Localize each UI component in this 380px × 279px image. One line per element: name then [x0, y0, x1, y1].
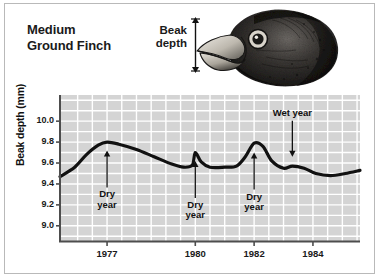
x-axis-tick-label: 1977 [85, 248, 129, 259]
y-axis-tick-label: 9.6 [20, 157, 54, 167]
beak-depth-line-chart [0, 0, 380, 279]
finch-beak-depth-figure: Medium Ground Finch Beak depth [0, 0, 380, 279]
y-axis-tick-label: 9.0 [20, 220, 54, 230]
chart-region: Beak depth (mm) 10.09.89.69.49.29.0 1977… [0, 0, 380, 279]
x-axis-tick-label: 1984 [291, 248, 335, 259]
wet-year-annotation: Wet year [261, 108, 323, 119]
y-axis-tick-label: 10.0 [20, 115, 54, 125]
x-axis-tick-label: 1980 [173, 248, 217, 259]
y-axis-tick-label: 9.8 [20, 136, 54, 146]
dry-year-annotation: Dry year [80, 189, 134, 210]
dry-year-annotation: Dry year [168, 200, 222, 221]
dry-year-annotation: Dry year [227, 192, 281, 213]
y-axis-tick-label: 9.4 [20, 178, 54, 188]
x-axis-tick-label: 1982 [232, 248, 276, 259]
y-axis-tick-label: 9.2 [20, 199, 54, 209]
